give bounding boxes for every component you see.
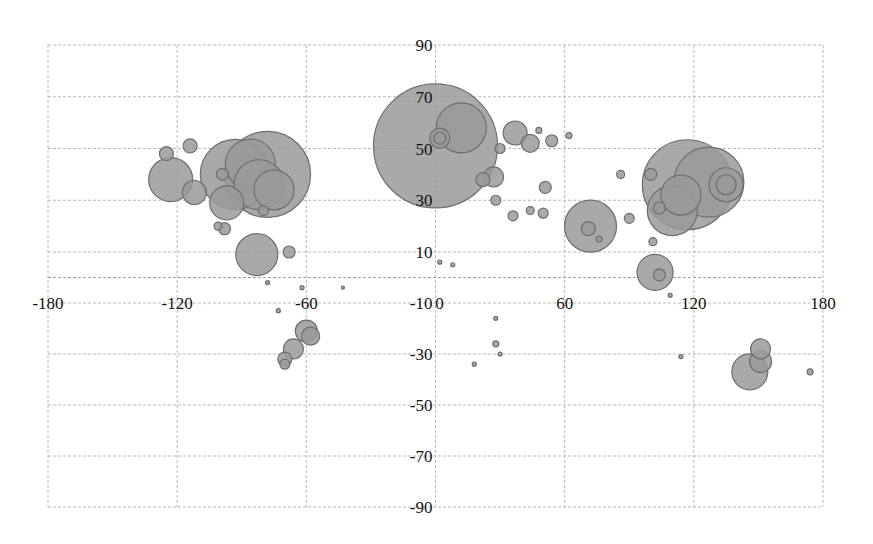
bubble-point — [434, 132, 446, 144]
bubble-point — [438, 260, 442, 264]
x-tick-label: 60 — [556, 294, 573, 313]
bubble-point — [526, 207, 534, 215]
bubble-point — [236, 234, 278, 276]
bubble-point — [645, 168, 657, 180]
bubble-point — [679, 355, 683, 359]
bubble-point — [508, 211, 518, 221]
x-tick-label: -120 — [162, 294, 193, 313]
bubble-point — [302, 327, 320, 345]
bubble-point — [216, 168, 228, 180]
bubble-point — [491, 195, 501, 205]
bubble-point — [300, 286, 304, 290]
y-tick-label: 10 — [416, 243, 433, 262]
x-tick-label: -60 — [295, 294, 318, 313]
bubble-point — [538, 208, 548, 218]
bubble-point — [494, 316, 498, 320]
y-tick-label: 30 — [416, 191, 433, 210]
bubble-point — [498, 352, 502, 356]
bubble-point — [649, 238, 657, 246]
bubble-point — [617, 170, 625, 178]
x-tick-label: 0 — [435, 294, 444, 313]
bubble-point — [266, 281, 270, 285]
bubble-point — [210, 186, 244, 220]
y-tick-label: 50 — [416, 140, 433, 159]
bubble-point — [283, 246, 295, 258]
bubble-point — [276, 309, 280, 313]
bubble-point — [495, 144, 505, 154]
bubble-point — [258, 206, 268, 216]
bubble-point — [596, 236, 602, 242]
bubble-point — [521, 134, 539, 152]
y-tick-label: -30 — [410, 345, 433, 364]
bubble-point — [254, 170, 294, 210]
y-tick-label: 90 — [416, 36, 433, 55]
bubble-point — [661, 175, 701, 215]
bubble-point — [653, 269, 665, 281]
y-tick-label: -90 — [410, 498, 433, 517]
bubble-point — [539, 181, 551, 193]
x-tick-label: -180 — [32, 294, 63, 313]
bubble-point — [159, 147, 173, 161]
bubble-point — [341, 286, 344, 289]
bubble-point — [653, 202, 665, 214]
y-tick-label: -50 — [410, 396, 433, 415]
bubble-point — [451, 263, 455, 267]
bubble-point — [472, 362, 476, 366]
bubble-point — [182, 180, 206, 204]
bubble-point — [751, 339, 771, 359]
bubble-point — [536, 127, 542, 133]
bubble-point — [280, 359, 290, 369]
bubble-point — [183, 139, 197, 153]
bubble-point — [214, 222, 222, 230]
bubble-point — [493, 341, 499, 347]
y-tick-label: -70 — [410, 447, 433, 466]
x-tick-label: 180 — [810, 294, 836, 313]
bubble-point — [476, 173, 490, 187]
bubble-point — [581, 222, 595, 236]
y-tick-label: -10 — [410, 294, 433, 313]
bubble-point — [668, 293, 672, 297]
x-tick-label: 120 — [681, 294, 707, 313]
bubble-series — [149, 84, 813, 390]
bubble-point — [807, 369, 813, 375]
bubble-point — [566, 133, 572, 139]
bubble-point — [546, 135, 558, 147]
bubble-point — [716, 175, 736, 195]
bubble-point — [624, 213, 634, 223]
y-tick-label: 70 — [416, 88, 433, 107]
bubble-map-chart: 9070503010-10-30-50-70-90 -180-120-60060… — [0, 0, 873, 544]
